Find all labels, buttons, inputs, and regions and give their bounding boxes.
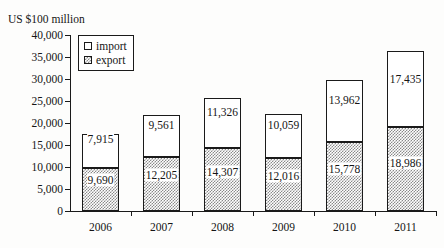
y-axis-tick-label: 15,000: [31, 139, 63, 151]
y-axis-tick: [65, 167, 70, 168]
bar-value-label-export: 18,986: [389, 156, 423, 169]
x-axis-tick: [131, 211, 132, 216]
bar-group[interactable]: 12,01610,059: [265, 114, 302, 211]
y-axis-unit-caption: US $100 million: [8, 13, 85, 26]
x-axis-tick-label: 2010: [333, 221, 356, 233]
y-axis-tick-label: 30,000: [31, 73, 63, 85]
x-axis-tick-label: 2008: [211, 221, 234, 233]
y-axis-tick: [65, 145, 70, 146]
y-axis-tick: [65, 123, 70, 124]
y-axis-tick: [65, 57, 70, 58]
bar-value-label-import: 13,962: [328, 94, 362, 107]
y-axis-tick: [65, 35, 70, 36]
x-axis-tick-label: 2011: [394, 221, 417, 233]
x-axis-tick: [314, 211, 315, 216]
x-axis-tick: [375, 211, 376, 216]
bar-segment-export[interactable]: [265, 158, 302, 211]
y-axis-tick-label: 25,000: [31, 95, 63, 107]
bar-group[interactable]: 9,6907,915: [82, 134, 119, 211]
legend-swatch-export-icon: [84, 56, 92, 64]
legend-label-export: export: [96, 53, 125, 67]
chart-legend: import export: [78, 35, 134, 71]
bar-group[interactable]: 12,2059,561: [143, 115, 180, 211]
y-axis-tick-label: 5,000: [37, 183, 63, 195]
y-axis-tick: [65, 211, 70, 212]
x-axis-tick: [253, 211, 254, 216]
bar-value-label-export: 15,778: [328, 162, 362, 175]
legend-swatch-import-icon: [84, 42, 92, 50]
bar-segment-import[interactable]: [326, 80, 363, 141]
legend-item-export: export: [84, 53, 127, 67]
bar-group[interactable]: 14,30711,326: [204, 98, 241, 211]
y-axis-tick-label: 35,000: [31, 51, 63, 63]
y-axis-tick-label: 10,000: [31, 161, 63, 173]
x-axis-tick-label: 2009: [272, 221, 295, 233]
y-axis-tick: [65, 79, 70, 80]
y-axis-tick-label: 20,000: [31, 117, 63, 129]
bar-segment-export[interactable]: [326, 142, 363, 211]
bar-value-label-export: 14,307: [206, 165, 240, 178]
bar-group[interactable]: 15,77813,962: [326, 80, 363, 211]
bar-value-label-import: 17,435: [389, 73, 423, 86]
y-axis-tick: [65, 101, 70, 102]
y-axis-tick-label: 40,000: [31, 29, 63, 41]
bar-value-label-import: 9,561: [148, 118, 176, 131]
bar-value-label-import: 7,915: [87, 133, 115, 146]
x-axis-tick-label: 2006: [89, 221, 112, 233]
bar-segment-import[interactable]: [387, 51, 424, 128]
bar-value-label-import: 10,059: [267, 118, 301, 131]
bar-value-label-export: 12,016: [267, 169, 301, 182]
legend-label-import: import: [96, 39, 127, 53]
y-axis-tick-label: 0: [57, 205, 63, 217]
chart-container: US $100 million 05,00010,00015,00020,000…: [0, 0, 444, 248]
x-axis-tick: [436, 211, 437, 216]
bar-group[interactable]: 18,98617,435: [387, 51, 424, 211]
y-axis-tick: [65, 189, 70, 190]
bar-segment-export[interactable]: [204, 148, 241, 211]
y-axis-line: [70, 35, 71, 212]
bar-value-label-export: 9,690: [87, 174, 115, 187]
bar-value-label-import: 11,326: [206, 106, 239, 119]
legend-item-import: import: [84, 39, 127, 53]
x-axis-tick: [192, 211, 193, 216]
bar-segment-export[interactable]: [143, 157, 180, 211]
bar-value-label-export: 12,205: [145, 169, 179, 182]
x-axis-tick-label: 2007: [150, 221, 173, 233]
